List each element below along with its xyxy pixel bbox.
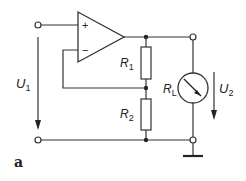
resistor-r2 bbox=[141, 99, 151, 130]
ground-node bbox=[144, 138, 148, 142]
u2-arrow bbox=[211, 72, 217, 120]
opamp-plus: + bbox=[82, 19, 88, 31]
opamp-minus: − bbox=[82, 44, 88, 56]
opamp: + − bbox=[78, 12, 124, 62]
output-terminal bbox=[190, 34, 196, 40]
svg-text:R2: R2 bbox=[120, 107, 134, 123]
figure-caption: a bbox=[14, 154, 23, 170]
resistor-r1 bbox=[141, 47, 151, 79]
input-terminal-bottom bbox=[35, 137, 41, 143]
ground-icon bbox=[183, 143, 203, 156]
output-terminal-bottom bbox=[190, 137, 196, 143]
circuit-diagram: + − R1 R2 RL U1 U2 a bbox=[0, 0, 246, 181]
u1-arrow bbox=[35, 37, 41, 130]
svg-text:U1: U1 bbox=[16, 76, 30, 93]
svg-text:RL: RL bbox=[163, 82, 177, 98]
svg-text:R1: R1 bbox=[120, 56, 134, 72]
meter-icon bbox=[178, 73, 208, 103]
svg-text:U2: U2 bbox=[219, 81, 233, 98]
input-terminal-top bbox=[35, 22, 41, 28]
